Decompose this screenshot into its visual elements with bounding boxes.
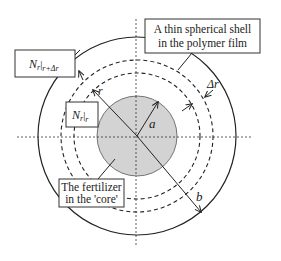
flux-outer-label-box: Nr|r+Δr (15, 50, 75, 77)
radius-b-label: b (196, 189, 203, 204)
flux-outer-eval: r+Δr (42, 64, 59, 73)
flux-outer-arrow (79, 71, 83, 80)
delta-r-label: Δr (206, 77, 219, 91)
shell-label-box: A thin spherical shell in the polymer fi… (145, 19, 260, 53)
delta-r-arrow-inner (182, 104, 192, 111)
spherical-shell-diagram: A thin spherical shell in the polymer fi… (0, 0, 281, 261)
shell-label-line1: A thin spherical shell (154, 23, 251, 36)
flux-inner-label-box: Nr|r (66, 102, 98, 127)
delta-r-arrow-outer (205, 90, 213, 97)
shell-leader-line-2 (178, 53, 192, 70)
core-label-line1: The fertilizer (61, 181, 122, 193)
core-label-line2: in the 'core' (65, 193, 118, 205)
shell-label-line2: in the polymer film (158, 37, 247, 50)
flux-outer-leader-line (75, 50, 80, 55)
radius-r-label: r (98, 84, 103, 98)
core-label-box: The fertilizer in the 'core' (59, 179, 124, 207)
radius-a-label: a (149, 116, 156, 131)
